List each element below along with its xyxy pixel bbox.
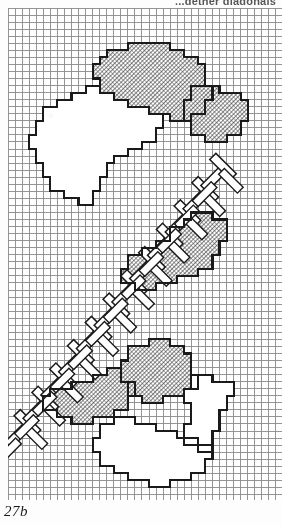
figure-label: 27b	[4, 503, 28, 520]
needlework-chart	[8, 8, 282, 500]
top-caption-fragment: ...gether diagonals	[0, 0, 282, 5]
chart-page: ...gether diagonals 27b	[0, 0, 282, 525]
chart-canvas	[8, 8, 282, 500]
